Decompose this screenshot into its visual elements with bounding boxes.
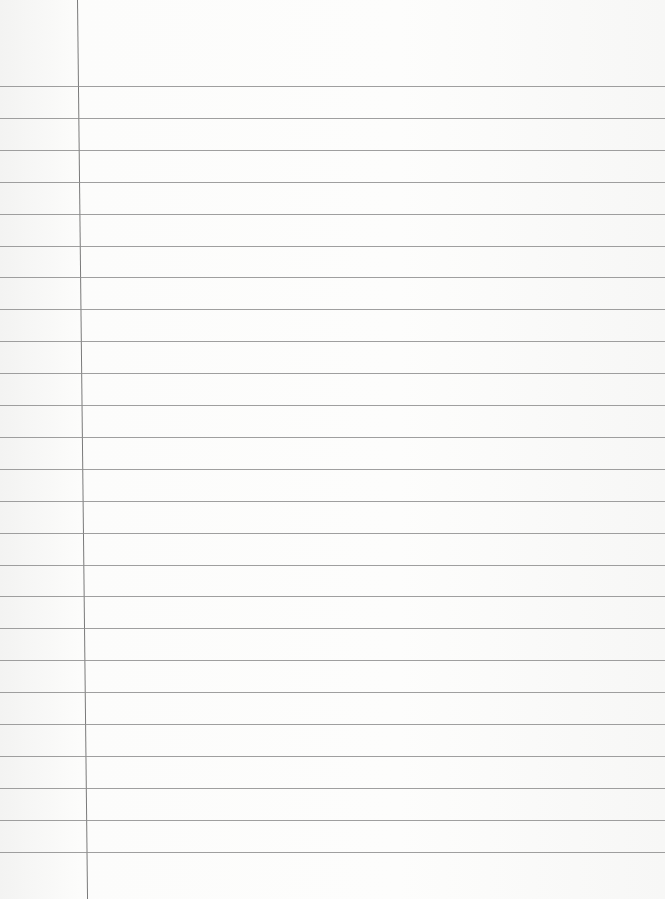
margin-line [77, 0, 88, 899]
rule-line [0, 756, 665, 757]
rule-line [0, 341, 665, 342]
rule-line [0, 565, 665, 566]
rule-line [0, 692, 665, 693]
rule-line [0, 469, 665, 470]
rule-line [0, 437, 665, 438]
rule-line [0, 405, 665, 406]
rule-line [0, 373, 665, 374]
rule-line [0, 118, 665, 119]
rule-line [0, 724, 665, 725]
rule-line [0, 277, 665, 278]
rule-line [0, 182, 665, 183]
rule-line [0, 501, 665, 502]
rule-line [0, 309, 665, 310]
rule-line [0, 246, 665, 247]
rule-line [0, 86, 665, 87]
rule-line [0, 628, 665, 629]
rule-line [0, 852, 665, 853]
rule-line [0, 820, 665, 821]
rule-line [0, 596, 665, 597]
rule-line [0, 660, 665, 661]
rule-line [0, 533, 665, 534]
rule-line [0, 788, 665, 789]
rule-line [0, 150, 665, 151]
rule-line [0, 214, 665, 215]
lined-paper [0, 0, 665, 899]
